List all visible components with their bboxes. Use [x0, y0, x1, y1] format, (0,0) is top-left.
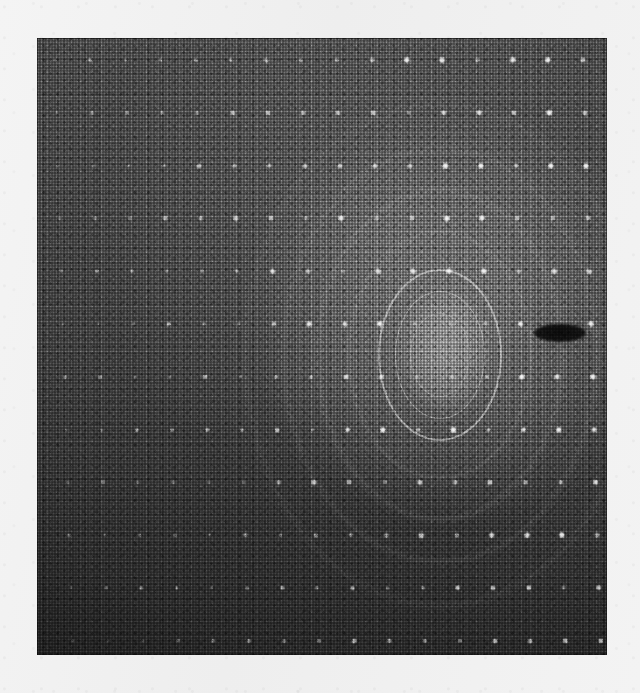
bragg-spot [554, 373, 561, 380]
bragg-spot [161, 163, 166, 168]
figure-page [0, 0, 640, 693]
bragg-spot [586, 268, 592, 274]
bragg-spot [263, 57, 269, 63]
bragg-spot [238, 374, 243, 379]
bragg-spot [387, 638, 392, 643]
outer-diffuse-arcs [37, 38, 607, 655]
bragg-spot [372, 162, 378, 168]
bragg-spot [203, 374, 209, 380]
bragg-spot [276, 480, 281, 485]
bragg-spot [99, 428, 103, 432]
bragg-spot [591, 426, 598, 433]
bragg-spot [53, 58, 57, 62]
bragg-spot [406, 110, 411, 115]
streak-3 [262, 368, 382, 370]
film-grain-coarse [37, 38, 607, 655]
bragg-spot [171, 480, 175, 484]
bragg-spot [582, 110, 588, 116]
bragg-spot [457, 638, 462, 643]
bragg-spot [125, 110, 130, 115]
bragg-spot [594, 532, 600, 538]
bragg-spot [480, 268, 487, 275]
bragg-spot [128, 216, 133, 221]
bragg-spot [305, 268, 311, 274]
film-grain-medium [37, 38, 607, 655]
bragg-spot [103, 533, 107, 537]
bragg-spot [235, 269, 240, 274]
bragg-spot [369, 57, 375, 63]
bragg-spot [409, 215, 415, 221]
bragg-spot [422, 638, 427, 643]
bragg-spot [242, 480, 246, 484]
bragg-spot [308, 374, 313, 379]
bragg-spot [410, 268, 417, 275]
bragg-spot [415, 427, 420, 432]
bragg-spot [488, 532, 495, 539]
bragg-spot [59, 269, 63, 273]
bragg-spot [587, 320, 594, 327]
bragg-spot [455, 585, 461, 591]
bragg-spot [71, 639, 75, 643]
bragg-spot [204, 427, 210, 433]
bragg-spot [350, 585, 356, 591]
bragg-spot [304, 216, 309, 221]
bragg-spot [169, 427, 174, 432]
bragg-spot [418, 532, 424, 538]
bragg-spot [230, 110, 236, 116]
bragg-spot [228, 57, 233, 62]
streak-2 [300, 349, 396, 351]
bragg-spot [375, 268, 381, 274]
bragg-spot [101, 480, 106, 485]
bragg-spot [160, 110, 165, 115]
bragg-spot [97, 374, 102, 379]
film-grain-fine [37, 38, 607, 655]
bragg-spot [66, 480, 70, 484]
bragg-spot [176, 638, 181, 643]
bragg-spot [281, 638, 286, 643]
bragg-spot [511, 110, 517, 116]
bragg-spot [562, 638, 568, 644]
bragg-spot [163, 216, 169, 222]
bragg-spot [158, 57, 163, 62]
bragg-spot [278, 533, 283, 538]
detector-border [37, 38, 607, 655]
bragg-spot [316, 638, 321, 643]
bragg-spot [441, 110, 448, 117]
bragg-spot [273, 374, 278, 379]
bragg-spot [300, 110, 306, 116]
bragg-spot [233, 215, 239, 221]
bragg-spot [596, 585, 602, 591]
bragg-spot [313, 533, 318, 538]
bragg-spot [266, 163, 272, 169]
bragg-spot [523, 480, 528, 485]
bragg-spot [64, 428, 68, 432]
bragg-spot [174, 586, 179, 591]
bragg-spot [583, 162, 590, 169]
bragg-spot [521, 426, 528, 433]
detector-image[interactable] [37, 38, 607, 655]
bragg-spot [450, 426, 457, 433]
bragg-spot [231, 163, 237, 169]
bragg-spot [382, 480, 387, 485]
bragg-spot [315, 585, 320, 590]
bragg-spot [280, 585, 285, 590]
bragg-spot [592, 479, 599, 486]
bragg-spot [525, 585, 531, 591]
bragg-spot [338, 215, 345, 222]
bragg-spot [443, 215, 450, 222]
bragg-spot [88, 57, 93, 62]
bragg-spot [129, 269, 134, 274]
bragg-spot [56, 164, 60, 168]
bragg-spot [344, 426, 351, 433]
bragg-spot [198, 216, 204, 222]
bragg-spot [62, 374, 67, 379]
bragg-spot [166, 321, 172, 327]
bragg-spot [141, 639, 145, 643]
bragg-spot [196, 163, 202, 169]
bragg-spot [299, 57, 304, 62]
bragg-spot [559, 532, 566, 539]
bragg-spot [517, 321, 524, 328]
bragg-spot [585, 215, 591, 221]
bragg-spot [550, 216, 556, 222]
bragg-spot [131, 322, 135, 326]
